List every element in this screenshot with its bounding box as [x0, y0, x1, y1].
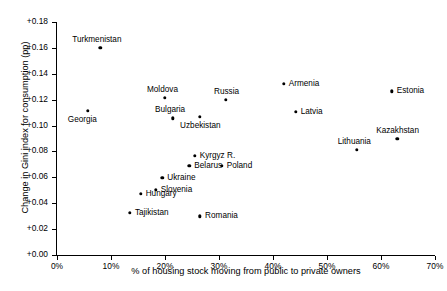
data-point-label: Belarus [194, 161, 222, 171]
data-point-label: Romania [205, 211, 238, 221]
x-axis-line [56, 255, 435, 256]
x-tick-label: 60% [373, 261, 390, 272]
data-point [188, 164, 191, 167]
data-point-label: Moldova [147, 85, 178, 95]
y-tick-label: +0.04 [27, 197, 48, 208]
data-point [139, 192, 142, 195]
y-tick-label: +0.12 [27, 94, 48, 105]
data-point-label: Tajikistan [135, 208, 169, 218]
y-tick: +0.16 [52, 48, 56, 49]
y-tick-label: +0.06 [27, 171, 48, 182]
data-point [193, 154, 196, 157]
data-point-label: Hungary [146, 189, 177, 199]
plot-area: +0.00+0.02+0.04+0.06+0.08+0.10+0.12+0.14… [57, 22, 435, 255]
x-tick-label: 50% [319, 261, 336, 272]
y-tick-label: +0.02 [27, 223, 48, 234]
y-tick: +0.12 [52, 100, 56, 101]
data-point-label: Kyrgyz R. [200, 151, 236, 161]
data-point-label: Turkmenistan [72, 35, 121, 45]
x-tick [381, 256, 382, 260]
data-point [355, 148, 358, 151]
data-point [163, 96, 166, 99]
y-tick: +0.00 [52, 255, 56, 256]
data-point [220, 164, 223, 167]
x-tick-label: 70% [427, 261, 444, 272]
x-tick-label: 20% [157, 261, 174, 272]
y-tick: +0.02 [52, 229, 56, 230]
x-tick [111, 256, 112, 260]
x-tick-label: 10% [103, 261, 120, 272]
x-tick [435, 256, 436, 260]
x-tick [57, 256, 58, 260]
data-point-label: Georgia [68, 115, 97, 125]
y-tick: +0.04 [52, 203, 56, 204]
data-point [282, 82, 285, 85]
y-tick: +0.08 [52, 151, 56, 152]
data-point-label: Uzbekistan [180, 121, 221, 131]
data-point-label: Kazakhstan [376, 126, 419, 136]
data-point [128, 211, 131, 214]
data-point-label: Latvia [301, 107, 323, 117]
x-tick-label: 0% [51, 261, 63, 272]
y-tick: +0.06 [52, 177, 56, 178]
data-point [395, 137, 398, 140]
data-point [161, 176, 164, 179]
data-point-label: Ukraine [167, 173, 195, 183]
data-point [224, 98, 227, 101]
data-point [198, 115, 201, 118]
y-tick: +0.18 [52, 22, 56, 23]
y-tick-label: +0.00 [27, 249, 48, 260]
y-axis-line [56, 22, 57, 256]
y-tick-label: +0.14 [27, 68, 48, 79]
x-tick-label: 40% [265, 261, 282, 272]
y-tick-label: +0.10 [27, 120, 48, 131]
data-point-label: Lithuania [338, 137, 371, 147]
data-point [294, 110, 297, 113]
x-tick [165, 256, 166, 260]
data-point-label: Estonia [397, 86, 424, 96]
x-tick [219, 256, 220, 260]
data-point-label: Armenia [289, 79, 320, 89]
y-tick: +0.10 [52, 126, 56, 127]
y-tick-label: +0.18 [27, 16, 48, 27]
data-point [86, 109, 89, 112]
data-point [390, 90, 393, 93]
data-point-label: Poland [227, 161, 253, 171]
data-point-label: Russia [214, 87, 239, 97]
scatter-chart: Change in Gini index for consumption (pp… [0, 0, 447, 291]
y-tick: +0.14 [52, 74, 56, 75]
x-tick [327, 256, 328, 260]
x-tick [273, 256, 274, 260]
x-tick-label: 30% [211, 261, 228, 272]
data-point [98, 46, 101, 49]
data-point [171, 117, 174, 120]
y-tick-label: +0.08 [27, 145, 48, 156]
y-tick-label: +0.16 [27, 42, 48, 53]
data-point-label: Bulgaria [155, 105, 185, 115]
data-point [198, 214, 201, 217]
